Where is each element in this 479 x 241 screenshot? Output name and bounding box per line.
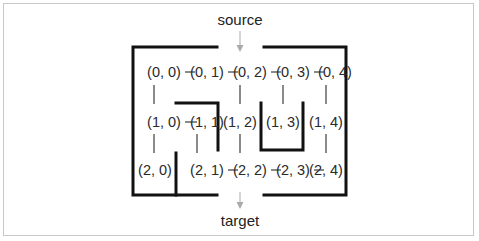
node-2-2: (2, 2)	[233, 162, 267, 178]
node-2-1: (2, 1)	[190, 162, 224, 178]
node-2-0: (2, 0)	[138, 162, 172, 178]
graph-nodes: (0, 0) (0, 1) (0, 2) (0, 3) (0, 4) (1, 0…	[138, 64, 352, 178]
maze-diagram: source target	[0, 0, 479, 241]
target-arrow-icon	[237, 202, 244, 209]
node-2-4: (2, 4)	[309, 162, 343, 178]
node-0-1: (0, 1)	[190, 64, 224, 80]
target-label: target	[221, 212, 260, 229]
node-2-3: (2, 3)	[276, 162, 310, 178]
node-1-0: (1, 0)	[147, 114, 181, 130]
source-arrow-icon	[237, 45, 244, 52]
source-label: source	[217, 11, 262, 28]
node-1-1: (1, 1)	[190, 114, 224, 130]
node-1-3: (1, 3)	[266, 114, 300, 130]
node-0-0: (0, 0)	[147, 64, 181, 80]
node-1-2: (1, 2)	[223, 114, 257, 130]
node-1-4: (1, 4)	[309, 114, 343, 130]
node-0-4: (0, 4)	[318, 64, 352, 80]
node-0-3: (0, 3)	[276, 64, 310, 80]
node-0-2: (0, 2)	[233, 64, 267, 80]
